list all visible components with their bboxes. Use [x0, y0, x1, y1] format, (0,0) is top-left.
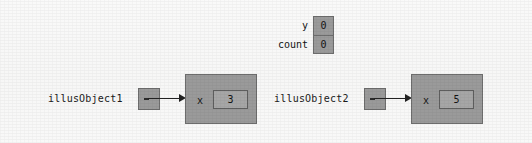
field-value-x-1: 3 [213, 90, 248, 109]
field-name-x-2: x [423, 96, 429, 106]
variable-value-count: 0 [313, 35, 334, 54]
variable-name-y: y [302, 21, 308, 31]
variable-name-count: count [278, 40, 308, 50]
reference-label-illusobject2: illusObject2 [274, 94, 349, 104]
variable-value-y: 0 [313, 16, 334, 35]
diagram-canvas: y 0 count 0 illusObject1 x 3 illusObject… [0, 0, 532, 143]
reference-arrow-1 [148, 94, 186, 103]
object-box-1: x 3 [185, 74, 257, 124]
field-value-x-2: 5 [439, 90, 474, 109]
field-name-x-1: x [197, 96, 203, 106]
object-box-2: x 5 [411, 74, 483, 124]
reference-label-illusobject1: illusObject1 [48, 94, 123, 104]
reference-arrow-2 [374, 94, 412, 103]
